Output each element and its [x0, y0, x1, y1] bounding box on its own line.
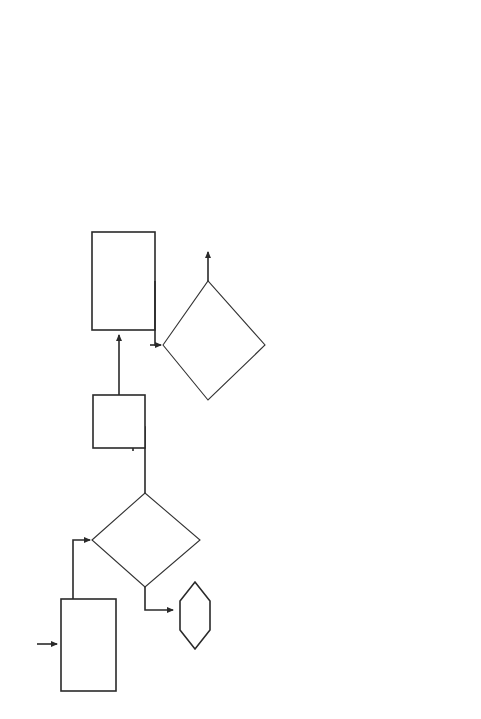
step1-box — [61, 599, 116, 691]
stop1-terminal — [180, 582, 210, 649]
decision2-diamond — [163, 281, 265, 400]
step3-box — [92, 232, 155, 330]
step2-box — [93, 395, 145, 448]
decision1-diamond — [92, 493, 200, 587]
ethical-decision-flowchart — [0, 0, 481, 719]
edge-step1-decision1 — [73, 540, 90, 599]
edge-step3-decision2 — [155, 281, 160, 345]
edge-decision1-stop1 — [145, 587, 173, 610]
